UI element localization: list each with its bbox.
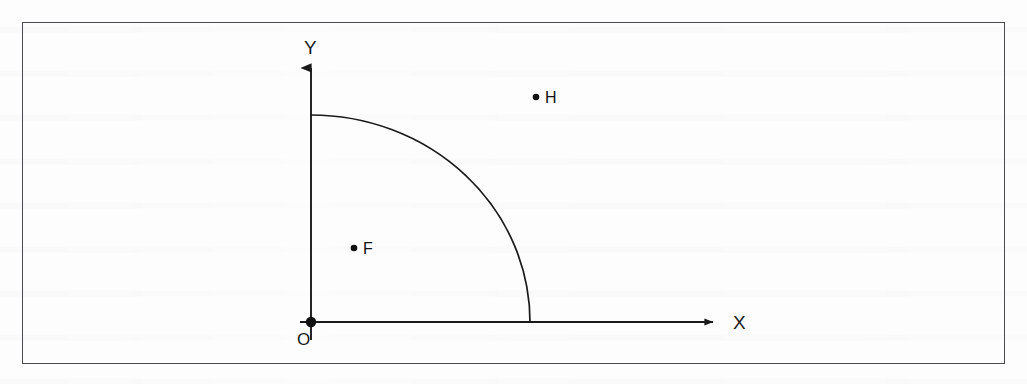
coordinate-diagram: H F X Y O <box>0 0 1027 384</box>
figure-page: H F X Y O <box>0 0 1027 384</box>
quarter-arc-curve <box>311 115 530 322</box>
point-f-dot <box>351 245 358 252</box>
origin-dot <box>306 317 316 327</box>
point-h-dot <box>533 94 540 101</box>
x-axis-label: X <box>733 312 746 333</box>
point-h-label: H <box>545 89 557 106</box>
origin-label: O <box>297 330 310 349</box>
point-f-label: F <box>363 240 373 257</box>
y-axis-label: Y <box>304 37 317 58</box>
